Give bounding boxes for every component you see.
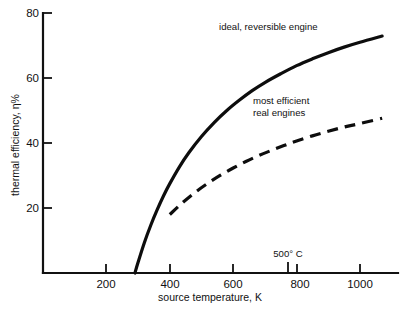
x-tick-label-800: 800 [290, 278, 309, 290]
y-tick-label-20: 20 [26, 202, 39, 214]
series-line-ideal-reversible-engine [135, 36, 382, 273]
x-tick-label-400: 400 [160, 278, 179, 290]
y-tick-label-80: 80 [26, 7, 39, 19]
y-axis-title: thermal efficiency, η% [9, 94, 21, 196]
series-line-most-efficient-real-engines [170, 118, 382, 214]
x-tick-label-600: 600 [223, 278, 242, 290]
x-axis-title: source temperature, K [158, 291, 262, 303]
temperature-marker-label: 500° C [273, 248, 303, 259]
y-tick-label-40: 40 [26, 137, 39, 149]
y-tick-label-60: 60 [26, 72, 39, 84]
y-axis-ticks [43, 13, 52, 208]
real-curve-label-line1: most efficient [253, 95, 310, 106]
thermal-efficiency-chart: 80 60 40 20 200 400 600 800 1000 500° C … [0, 0, 404, 318]
x-tick-label-200: 200 [96, 278, 115, 290]
ideal-curve-label: ideal, reversible engine [219, 21, 318, 32]
chart-figure: 80 60 40 20 200 400 600 800 1000 500° C … [0, 0, 404, 318]
x-tick-label-1000: 1000 [347, 278, 373, 290]
x-axis-ticks [106, 262, 360, 273]
real-curve-label-line2: real engines [253, 107, 305, 118]
